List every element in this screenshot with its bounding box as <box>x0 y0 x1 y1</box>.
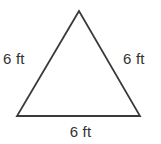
figure-container: 6 ft 6 ft 6 ft <box>0 0 161 144</box>
side-label-right: 6 ft <box>123 50 145 68</box>
side-label-bottom: 6 ft <box>0 123 161 141</box>
side-label-left: 6 ft <box>3 50 25 68</box>
triangle-shape <box>17 11 140 116</box>
